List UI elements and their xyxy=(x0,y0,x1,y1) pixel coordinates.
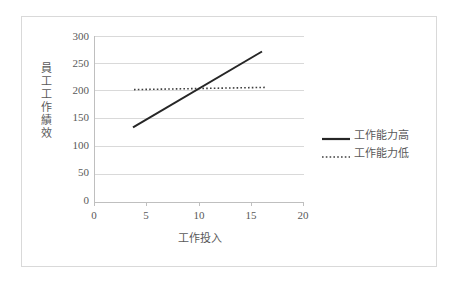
legend-label-high: 工作能力高 xyxy=(354,129,409,142)
plot-svg xyxy=(94,36,306,206)
legend-item-high[interactable]: 工作能力高 xyxy=(322,126,432,144)
plot-area xyxy=(94,36,304,202)
x-tick-label-15: 15 xyxy=(238,210,264,221)
y-tick-label-300: 300 xyxy=(55,31,89,42)
y-tick-label-50: 50 xyxy=(55,167,89,178)
y-tick-label-0: 0 xyxy=(55,195,89,206)
x-tick-label-5: 5 xyxy=(133,210,159,221)
series-line-high xyxy=(133,52,262,128)
legend-swatch-dotted-icon xyxy=(322,148,350,158)
x-axis-title: 工作投入 xyxy=(140,232,260,245)
x-tick-label-20: 20 xyxy=(290,210,316,221)
chart-legend: 工作能力高 工作能力低 xyxy=(322,126,432,162)
legend-swatch-solid-icon xyxy=(322,130,350,140)
y-tick-label-150: 150 xyxy=(55,112,89,123)
y-tick-label-100: 100 xyxy=(55,140,89,151)
chart-container: 員工工作績效 300 250 200 150 100 50 0 0 5 10 1… xyxy=(0,0,456,287)
legend-item-low[interactable]: 工作能力低 xyxy=(322,144,432,162)
y-tick-label-200: 200 xyxy=(55,85,89,96)
y-tick-label-250: 250 xyxy=(55,58,89,69)
x-axis-ticks xyxy=(95,203,304,207)
gridlines xyxy=(94,37,304,175)
x-tick-label-10: 10 xyxy=(186,210,212,221)
y-axis-title: 員工工作績效 xyxy=(39,62,53,140)
legend-label-low: 工作能力低 xyxy=(354,147,409,160)
x-tick-label-0: 0 xyxy=(81,210,107,221)
